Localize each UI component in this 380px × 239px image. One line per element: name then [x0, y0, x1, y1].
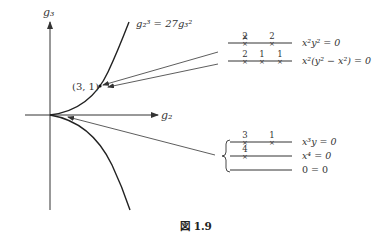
figure-caption: 図 1.9: [180, 220, 212, 232]
equation-label: 0 = 0: [302, 164, 328, 175]
multiplicity-label: 2: [269, 31, 274, 41]
multiplicity-label: 1: [259, 49, 264, 59]
curve-label: g₂³ = 27g₃²: [136, 18, 192, 29]
lower-row-3: 0 = 0: [230, 164, 328, 175]
pointer-line-1: [103, 52, 218, 85]
equation-label: x²(y² − x²) = 0: [302, 55, 371, 66]
multiplicity-label: 2: [242, 31, 247, 41]
y-axis-label: g₃: [43, 6, 54, 19]
diagram-canvas: g₃ g₂ g₂³ = 27g₃² (3, 1) × × × 2 2 x²y² …: [0, 0, 380, 239]
x-axis-label: g₂: [161, 109, 172, 122]
discriminant-curve-upper: [50, 22, 129, 115]
equation-label: x²y² = 0: [302, 37, 340, 48]
multiplicity-label: 2: [242, 49, 247, 59]
equation-label: x⁴ = 0: [302, 150, 331, 161]
upper-row-2: × × × 2 1 1 x²(y² − x²) = 0: [228, 49, 371, 66]
multiplicity-label: 3: [242, 130, 247, 140]
multiplicity-label: 4: [242, 144, 247, 154]
point-label: (3, 1): [72, 81, 99, 92]
multiplicity-label: 1: [277, 49, 282, 59]
equation-label: x³y = 0: [302, 136, 337, 147]
upper-row-1: × × × 2 2 x²y² = 0: [228, 31, 340, 48]
pointer-line-3: [68, 117, 215, 155]
multiplicity-label: 1: [269, 130, 274, 140]
brace: [222, 140, 230, 172]
discriminant-curve-lower: [50, 115, 130, 210]
